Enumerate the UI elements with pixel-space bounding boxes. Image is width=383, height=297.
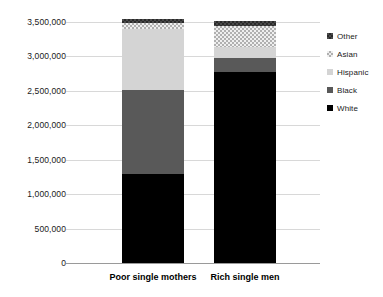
legend-item-black[interactable]: Black [327,82,381,98]
bar-segment-black[interactable] [122,90,184,175]
legend-item-white[interactable]: White [327,100,381,116]
bar-group-poor-single-mothers[interactable] [122,22,184,263]
bar-segment-white[interactable] [122,174,184,263]
y-tick-label: 2,000,000 [27,120,66,130]
gridline [66,56,320,57]
legend-swatch-icon [327,87,333,93]
legend-item-other[interactable]: Other [327,28,381,44]
stacked-bar[interactable] [122,19,184,263]
y-tick-label: 3,000,000 [27,51,66,61]
legend-label: Hispanic [337,68,368,77]
legend-swatch-icon [327,33,333,39]
x-axis-line [66,263,320,264]
bar-segment-white[interactable] [214,72,276,263]
bar-segment-asian[interactable] [214,26,276,47]
x-axis-label-poor-single-mothers: Poor single mothers [109,272,196,282]
y-tick-label: 1,500,000 [27,155,66,165]
legend-swatch-icon [327,105,333,111]
bar-segment-black[interactable] [214,58,276,73]
y-tick-label: 3,500,000 [27,17,66,27]
stacked-bar-chart: 3,500,000 3,000,000 2,500,000 2,000,000 … [0,0,383,297]
bar-segment-other[interactable] [122,19,184,23]
legend-item-hispanic[interactable]: Hispanic [327,64,381,80]
gridline [66,22,320,23]
bar-segment-hispanic[interactable] [214,47,276,58]
x-axis-label-rich-single-men: Rich single men [210,272,279,282]
gridline [66,229,320,230]
legend-label: Black [337,86,357,95]
legend: Other Asian Hispanic Black White [327,28,381,118]
y-tick-label: 2,500,000 [27,86,66,96]
legend-label: White [337,104,358,113]
bar-segment-asian[interactable] [122,23,184,29]
bar-segment-other[interactable] [214,21,276,26]
legend-item-asian[interactable]: Asian [327,46,381,62]
legend-swatch-icon [327,51,333,57]
gridline [66,160,320,161]
legend-label: Other [337,32,358,41]
gridline [66,125,320,126]
gridline [66,91,320,92]
legend-label: Asian [337,50,358,59]
gridline [66,194,320,195]
legend-swatch-icon [327,69,333,75]
stacked-bar[interactable] [214,21,276,263]
bar-segment-hispanic[interactable] [122,29,184,90]
y-tick-label: 1,000,000 [27,189,66,199]
bar-group-rich-single-men[interactable] [214,22,276,263]
y-tick-label: 500,000 [35,224,66,234]
plot-area [72,22,320,263]
